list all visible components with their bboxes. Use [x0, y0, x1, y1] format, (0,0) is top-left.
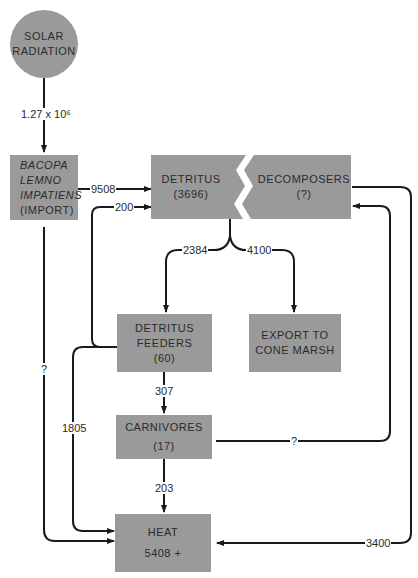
- energy-flow-diagram: SOLAR RADIATION BACOPA LEMNO IMPATIENS (…: [0, 0, 418, 578]
- export-label-1: EXPORT TO: [261, 328, 328, 343]
- feeders-label-1: DETRITUS: [135, 321, 194, 336]
- decomposers-value: (?): [297, 187, 312, 202]
- export-node: EXPORT TO CONE MARSH: [249, 314, 341, 372]
- feeders-label-2: FEEDERS: [137, 336, 192, 351]
- flow-feeders-heat: 1805: [61, 422, 87, 434]
- flow-detritus-export: 4100: [246, 244, 272, 256]
- import-label-3: IMPATIENS: [20, 188, 82, 203]
- flow-feeders-carnivores: 307: [154, 385, 174, 397]
- heat-label: HEAT: [148, 525, 179, 540]
- solar-label-2: RADIATION: [12, 44, 76, 59]
- flow-feeders-detritus: 200: [114, 201, 134, 213]
- detritus-value: (3696): [174, 187, 209, 202]
- import-label-4: (IMPORT): [20, 203, 74, 218]
- flow-carnivores-heat: 203: [154, 482, 174, 494]
- flow-solar-import: 1.27 x 10⁶: [20, 108, 72, 120]
- feeders-value: (60): [154, 351, 176, 366]
- flow-lines: [0, 0, 418, 578]
- flow-import-heat: ?: [40, 363, 48, 375]
- heat-value: 5408 +: [145, 546, 182, 561]
- carnivores-value: (17): [153, 439, 175, 454]
- detritus-label: DETRITUS: [162, 172, 221, 187]
- flow-decomposers-heat: 3400: [365, 537, 391, 549]
- import-label-2: LEMNO: [20, 173, 62, 188]
- decomposers-node: DECOMPOSERS (?): [258, 155, 350, 219]
- export-label-2: CONE MARSH: [255, 343, 335, 358]
- carnivores-node: CARNIVORES (17): [116, 415, 212, 459]
- detritus-feeders-node: DETRITUS FEEDERS (60): [117, 314, 212, 372]
- heat-node: HEAT 5408 +: [115, 514, 211, 572]
- flow-carnivores-decomposers: ?: [290, 435, 298, 447]
- flow-detritus-feeders: 2384: [182, 244, 208, 256]
- detritus-node: DETRITUS (3696): [151, 155, 231, 219]
- solar-radiation-node: SOLAR RADIATION: [10, 10, 78, 78]
- solar-label-1: SOLAR: [24, 29, 64, 44]
- decomposers-label: DECOMPOSERS: [258, 172, 350, 187]
- carnivores-label: CARNIVORES: [125, 420, 203, 435]
- flow-import-detritus: 9508: [90, 183, 116, 195]
- import-node: BACOPA LEMNO IMPATIENS (IMPORT): [10, 155, 78, 220]
- import-label-1: BACOPA: [20, 158, 68, 173]
